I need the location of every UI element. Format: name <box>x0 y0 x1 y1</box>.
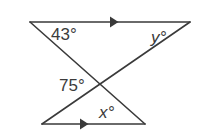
angle-label-y: y° <box>151 29 166 46</box>
angle-label-75: 75° <box>59 77 85 94</box>
angle-label-43: 43° <box>51 26 77 43</box>
bottom-arrow-marker-icon <box>80 119 89 130</box>
angle-label-x: x° <box>99 104 114 121</box>
transversal-left-line <box>30 22 145 124</box>
geometry-figure: . 43° y° 75° x° <box>0 0 204 137</box>
top-arrow-marker-icon <box>110 17 119 28</box>
